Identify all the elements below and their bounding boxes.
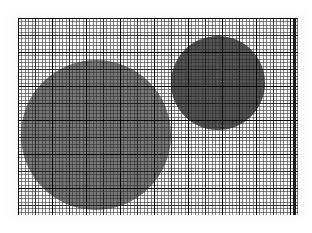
figure-root — [0, 0, 312, 233]
heavy-vertical-rule — [293, 18, 296, 215]
rule-layer — [18, 18, 298, 215]
graph-paper-field — [18, 18, 298, 215]
